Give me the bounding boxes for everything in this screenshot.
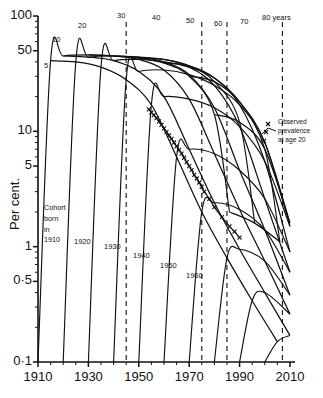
- chart-figure: 1005010510·50·11910193019501970199020105…: [0, 0, 323, 398]
- age-isopleth-curve: [51, 61, 278, 342]
- y-axis-title: Per cent.: [8, 178, 23, 230]
- observed-data-marker: [172, 141, 176, 145]
- cohort-curve: [265, 335, 290, 362]
- x-axis-tick-label: 1950: [119, 370, 159, 385]
- y-axis-tick-label: 1: [0, 239, 32, 254]
- y-axis-tick-label: 10: [0, 123, 32, 138]
- cohort-curves: [38, 37, 290, 362]
- observed-data-marker: [167, 134, 171, 138]
- age-curve-label: 70: [240, 18, 248, 26]
- observed-data-marker: [180, 152, 184, 156]
- observed-data-marker: [190, 168, 194, 172]
- observed-data-marker: [220, 215, 224, 219]
- age-curve-label: 30: [117, 12, 125, 20]
- annotation-marker-sample: [266, 122, 270, 126]
- cohort-label: 1940: [133, 252, 150, 260]
- axes: [33, 16, 295, 367]
- observed-prevalence-series: [147, 107, 242, 239]
- y-axis-tick-label: 50: [0, 43, 32, 58]
- observed-data-marker: [202, 190, 206, 194]
- age-curve-label: 60: [214, 20, 222, 28]
- y-axis-tick-label: 0·1: [0, 354, 32, 369]
- y-axis-tick-label: 0·5: [0, 273, 32, 288]
- observed-data-marker: [195, 176, 199, 180]
- x-axis-tick-label: 1930: [68, 370, 108, 385]
- x-axis-tick-label: 1970: [169, 370, 209, 385]
- age-curve-label: 40: [152, 14, 160, 22]
- observed-data-marker: [192, 173, 196, 177]
- observed-prevalence-line: [149, 109, 240, 237]
- observed-data-marker: [233, 230, 237, 234]
- cohort-label: 1950: [160, 262, 177, 270]
- cohort-label: Cohort born in 1910: [44, 203, 66, 246]
- age-curve-label: 50: [186, 17, 194, 25]
- cohort-label: 1920: [74, 238, 91, 246]
- y-axis-tick-label: 5: [0, 158, 32, 173]
- age-isopleth-curve: [229, 212, 279, 242]
- age-curve-label: 20: [78, 22, 86, 30]
- annotation-leader: [262, 128, 276, 134]
- age-isopleth-curves: [51, 55, 290, 342]
- observed-data-marker: [212, 205, 216, 209]
- cohort-label: 1930: [104, 243, 121, 251]
- age-curve-label: 5: [44, 62, 48, 70]
- age-curve-label: 10: [52, 36, 60, 44]
- x-axis-tick-label: 1910: [18, 370, 58, 385]
- observed-data-marker: [227, 224, 231, 228]
- y-axis-tick-label: 100: [0, 8, 32, 23]
- observed-data-marker: [182, 156, 186, 160]
- x-axis-tick-label: 2010: [270, 370, 310, 385]
- observed-data-marker: [238, 236, 242, 240]
- x-axis-tick-label: 1990: [220, 370, 260, 385]
- observed-data-marker: [185, 160, 189, 164]
- cohort-curve: [214, 246, 290, 362]
- observed-prevalence-annotation: Observed prevalence at age 20: [278, 118, 310, 145]
- observed-data-marker: [170, 137, 174, 141]
- age-curve-label: 80 years: [262, 14, 291, 22]
- cohort-label: 1960: [186, 272, 203, 280]
- lexis-diagram-plot: [0, 0, 323, 398]
- observed-data-marker: [197, 181, 201, 185]
- observed-data-marker: [187, 164, 191, 168]
